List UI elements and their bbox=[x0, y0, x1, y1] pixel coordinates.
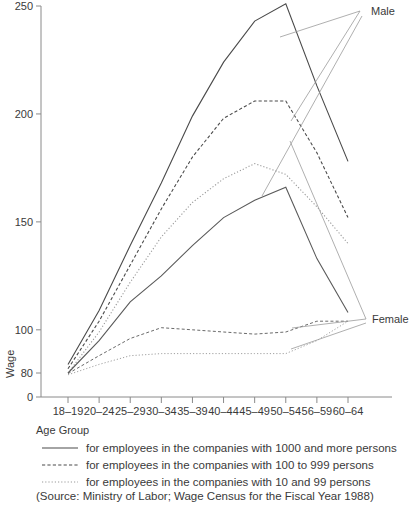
y-tick-label: 200 bbox=[15, 108, 33, 120]
chart-svg: 080100150200250 18–1920–2425–2930–3435–3… bbox=[0, 0, 416, 510]
wage-by-age-chart: 080100150200250 18–1920–2425–2930–3435–3… bbox=[0, 0, 416, 510]
female-label: Female bbox=[372, 313, 409, 325]
y-tick-label: 0 bbox=[27, 391, 33, 403]
x-tick-label: 56–59 bbox=[302, 405, 333, 417]
x-tick-label: 18–19 bbox=[53, 405, 84, 417]
y-tick-label: 250 bbox=[15, 0, 33, 12]
series-line bbox=[68, 321, 348, 375]
female-annotation: Female bbox=[290, 141, 409, 349]
x-tick-label: 40–44 bbox=[208, 405, 239, 417]
male-label: Male bbox=[371, 5, 395, 17]
x-tick-label: 30–34 bbox=[146, 405, 177, 417]
x-tick-label: 35–39 bbox=[177, 405, 208, 417]
y-axis-title: Wage bbox=[4, 350, 16, 378]
x-tick-label: 60–64 bbox=[333, 405, 364, 417]
male-leader-1 bbox=[280, 11, 360, 37]
y-tick-group: 080100150200250 bbox=[15, 0, 41, 403]
x-tick-group: 18–1920–2425–2930–3435–3940–4445–4950–54… bbox=[53, 397, 364, 417]
series-line bbox=[68, 321, 348, 373]
x-tick-label: 25–29 bbox=[115, 405, 146, 417]
series-line bbox=[68, 187, 348, 373]
x-axis: 18–1920–2425–2930–3435–3940–4445–4950–54… bbox=[41, 397, 392, 417]
y-tick-label: 80 bbox=[21, 367, 33, 379]
male-leader-2 bbox=[291, 11, 360, 121]
x-axis-title: Age Group bbox=[36, 424, 89, 436]
series-group bbox=[68, 4, 348, 375]
legend: for employees in the companies with 1000… bbox=[42, 442, 397, 488]
y-tick-label: 150 bbox=[15, 216, 33, 228]
female-leader-1 bbox=[290, 141, 366, 319]
legend-label: for employees in the companies with 10 a… bbox=[86, 476, 371, 488]
legend-label: for employees in the companies with 1000… bbox=[86, 442, 397, 454]
legend-label: for employees in the companies with 100 … bbox=[86, 459, 374, 471]
source-note: (Source: Ministry of Labor; Wage Census … bbox=[36, 490, 374, 502]
x-tick-label: 50–54 bbox=[270, 405, 301, 417]
x-tick-label: 45–49 bbox=[239, 405, 270, 417]
series-line bbox=[68, 4, 348, 365]
x-tick-label: 20–24 bbox=[84, 405, 115, 417]
male-leader-3 bbox=[262, 16, 362, 196]
y-tick-label: 100 bbox=[15, 324, 33, 336]
series-line bbox=[68, 164, 348, 373]
y-axis: 080100150200250 bbox=[15, 0, 41, 403]
